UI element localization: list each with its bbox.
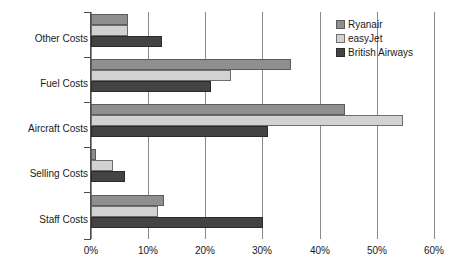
bar-british-airways-aircraft-costs bbox=[91, 126, 268, 137]
bar-easyjet-fuel-costs bbox=[91, 70, 231, 81]
category-axis: Other Costs Fuel Costs Aircraft Costs Se… bbox=[0, 0, 88, 271]
bar-ryanair-fuel-costs bbox=[91, 59, 291, 70]
legend-swatch-icon-easyjet bbox=[336, 34, 345, 43]
gridline-60pct bbox=[434, 12, 435, 239]
legend-label-british-airways: British Airways bbox=[348, 47, 413, 58]
category-label-aircraft-costs: Aircraft Costs bbox=[4, 123, 88, 134]
bar-easyjet-aircraft-costs bbox=[91, 115, 403, 126]
bar-ryanair-aircraft-costs bbox=[91, 104, 345, 115]
xtick-label-6: 60% bbox=[414, 245, 454, 257]
legend-label-ryanair: Ryanair bbox=[348, 19, 382, 30]
legend-item-easyjet[interactable]: easyJet bbox=[336, 31, 413, 45]
legend: Ryanair easyJet British Airways bbox=[336, 17, 413, 59]
xtick-label-5: 50% bbox=[357, 245, 397, 257]
bar-ryanair-other-costs bbox=[91, 14, 128, 25]
bar-ryanair-selling-costs bbox=[91, 149, 96, 160]
bar-chart: Other Costs Fuel Costs Aircraft Costs Se… bbox=[0, 0, 455, 271]
bar-british-airways-selling-costs bbox=[91, 171, 125, 182]
xtick-label-0: 0% bbox=[71, 245, 111, 257]
xtick-label-4: 40% bbox=[300, 245, 340, 257]
xtick-label-3: 30% bbox=[242, 245, 282, 257]
bar-british-airways-fuel-costs bbox=[91, 81, 211, 92]
legend-swatch-icon-british-airways bbox=[336, 48, 345, 57]
xtick-label-1: 10% bbox=[128, 245, 168, 257]
legend-swatch-icon-ryanair bbox=[336, 20, 345, 29]
bar-easyjet-staff-costs bbox=[91, 206, 158, 217]
xtick-label-2: 20% bbox=[185, 245, 225, 257]
category-label-selling-costs: Selling Costs bbox=[4, 168, 88, 179]
legend-item-british-airways[interactable]: British Airways bbox=[336, 45, 413, 59]
legend-item-ryanair[interactable]: Ryanair bbox=[336, 17, 413, 31]
category-label-other-costs: Other Costs bbox=[4, 33, 88, 44]
bar-british-airways-staff-costs bbox=[91, 217, 263, 228]
category-label-staff-costs: Staff Costs bbox=[4, 214, 88, 225]
bar-british-airways-other-costs bbox=[91, 36, 162, 47]
bar-easyjet-other-costs bbox=[91, 25, 128, 36]
category-label-fuel-costs: Fuel Costs bbox=[4, 78, 88, 89]
legend-label-easyjet: easyJet bbox=[348, 33, 382, 44]
bar-ryanair-staff-costs bbox=[91, 195, 164, 206]
bar-easyjet-selling-costs bbox=[91, 160, 113, 171]
